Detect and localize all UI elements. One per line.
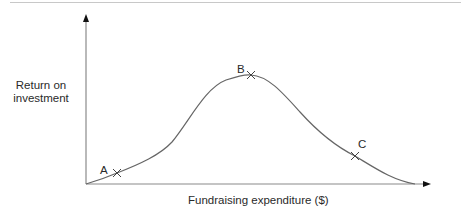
roi-chart — [0, 0, 461, 211]
y-axis-arrow-icon — [83, 14, 89, 22]
roi-curve — [86, 75, 415, 184]
x-axis-label: Fundraising expenditure ($) — [188, 193, 328, 207]
point-c-marker-icon — [351, 152, 359, 160]
point-c-label: C — [358, 138, 366, 150]
y-axis-label-line1: Return on — [10, 79, 72, 92]
point-a-marker-icon — [113, 169, 121, 177]
point-b-label: B — [237, 63, 245, 75]
y-axis-label-line2: investment — [10, 92, 72, 105]
x-axis-arrow-icon — [423, 181, 431, 187]
y-axis-label: Return on investment — [10, 79, 72, 105]
point-a-label: A — [100, 164, 108, 176]
